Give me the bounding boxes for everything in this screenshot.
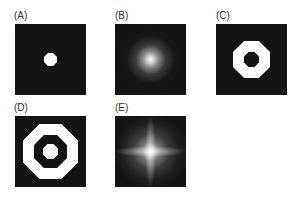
panel-e-diffraction [115,116,186,187]
label-e: (E) [115,103,128,113]
label-c: (C) [216,11,230,21]
label-d: (D) [14,103,28,113]
panel-d-double-ring [15,116,86,187]
label-b: (B) [115,11,128,21]
label-a: (A) [14,11,27,21]
gaussian-shape [115,24,186,95]
inner-dot [43,144,58,159]
dot-shape [44,53,57,66]
diffraction-vertical-streak [145,116,156,187]
panel-a-dot [15,24,86,95]
ring-hole [244,52,259,67]
panel-c-ring [216,24,287,95]
panel-b-gaussian [115,24,186,95]
